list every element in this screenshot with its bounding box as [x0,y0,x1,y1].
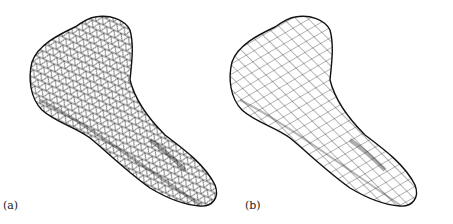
quad-mesh-shape [215,0,453,224]
figure-panel-b: (b) [215,0,453,224]
panel-label-b: (b) [245,199,261,212]
panel-label-a: (a) [3,199,18,212]
figure-panel-a: (a) [0,0,226,224]
triangle-mesh-shape [0,0,226,224]
